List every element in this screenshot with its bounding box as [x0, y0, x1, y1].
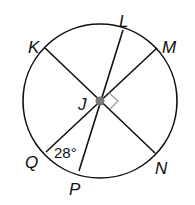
right-angle-marker — [109, 93, 118, 109]
circle-diagram: J K L M N P Q 28° — [0, 0, 195, 205]
label-n: N — [155, 159, 168, 178]
center-dot — [96, 97, 105, 106]
label-m: M — [162, 38, 177, 57]
angle-label: 28° — [54, 144, 77, 161]
label-p: P — [69, 180, 81, 199]
label-l: L — [119, 12, 128, 31]
label-k: K — [28, 38, 40, 57]
label-j: J — [77, 95, 87, 114]
label-q: Q — [25, 153, 38, 172]
